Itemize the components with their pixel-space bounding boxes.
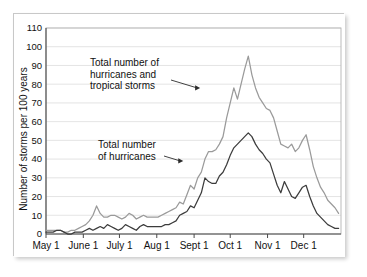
annotation-line: hurricanes and xyxy=(90,69,156,80)
x-tick-label: May 1 xyxy=(32,240,60,251)
y-tick-label: 10 xyxy=(31,210,42,221)
y-tick-label: 20 xyxy=(31,191,42,202)
y-tick-label: 110 xyxy=(27,22,42,33)
x-tick-label: June 1 xyxy=(68,240,98,251)
x-tick-label: Sept 1 xyxy=(180,240,209,251)
y-tick-label: 50 xyxy=(31,135,42,146)
annotation-line: Total number xyxy=(98,139,156,150)
annotation-line: tropical storms xyxy=(90,80,155,91)
y-tick-label: 30 xyxy=(31,172,42,183)
x-tick-label: Nov 1 xyxy=(254,240,281,251)
y-tick-label: 0 xyxy=(37,228,42,239)
y-tick-label: 70 xyxy=(31,97,42,108)
x-tick-label: Aug 1 xyxy=(144,240,171,251)
y-tick-label: 90 xyxy=(31,60,42,71)
chart-card: 0102030405060708090100110 May 1June 1Jul… xyxy=(13,13,344,256)
y-axis-title: Number of storms per 100 years xyxy=(18,67,29,210)
y-tick-label: 80 xyxy=(31,79,42,90)
annotation-line: of hurricanes xyxy=(98,151,156,162)
chart-background xyxy=(14,14,345,257)
annotation-line: Total number of xyxy=(90,57,159,68)
x-tick-label: Oct 1 xyxy=(218,240,242,251)
x-tick-label: July 1 xyxy=(106,240,133,251)
hurricane-frequency-chart: 0102030405060708090100110 May 1June 1Jul… xyxy=(14,14,345,257)
y-tick-label: 60 xyxy=(31,116,42,127)
y-tick-label: 100 xyxy=(26,41,42,52)
x-tick-label: Dec 1 xyxy=(291,240,318,251)
y-tick-label: 40 xyxy=(31,153,42,164)
